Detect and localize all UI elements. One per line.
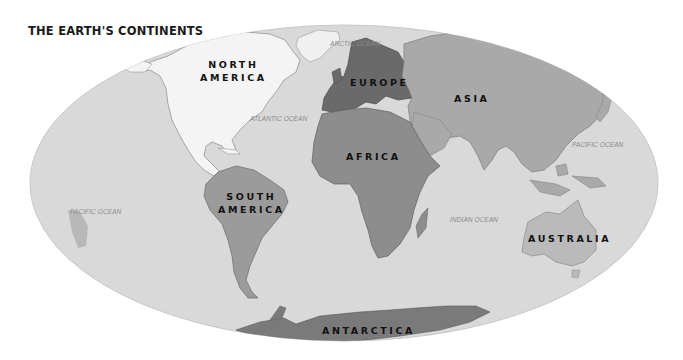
- label-south-america: SOUTH AMERICA: [218, 190, 285, 216]
- label-antarctica: ANTARCTICA: [322, 324, 415, 337]
- label-pacific-ocean-west: PACIFIC OCEAN: [70, 208, 121, 215]
- label-pacific-ocean-east: PACIFIC OCEAN: [572, 141, 623, 148]
- label-indian-ocean: INDIAN OCEAN: [450, 216, 498, 223]
- label-australia: AUSTRALIA: [528, 232, 611, 245]
- label-europe: EUROPE: [350, 76, 409, 89]
- label-africa: AFRICA: [346, 150, 401, 163]
- world-map: [0, 0, 683, 360]
- label-asia: ASIA: [454, 92, 489, 105]
- label-atlantic-ocean: ATLANTIC OCEAN: [250, 115, 307, 122]
- label-north-america: NORTH AMERICA: [200, 58, 267, 84]
- label-arctic-ocean: ARCTIC OCEAN: [330, 40, 380, 47]
